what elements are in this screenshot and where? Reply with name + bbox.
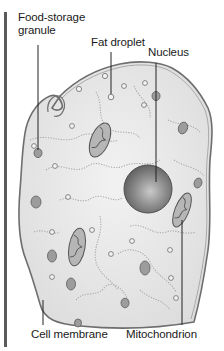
label-fat-droplet: Fat droplet (91, 36, 145, 48)
label-cell-membrane: Cell membrane (31, 328, 108, 340)
label-food-storage-line2: granule (18, 24, 56, 36)
label-food-storage-line1: Food-storage (18, 11, 85, 23)
label-nucleus: Nucleus (148, 46, 189, 58)
cell-diagram: Food-storage granule Fat droplet Nucleus… (0, 0, 224, 351)
nucleus (124, 165, 172, 213)
cell-illustration (0, 0, 224, 351)
label-mitochondrion: Mitochondrion (126, 328, 197, 340)
